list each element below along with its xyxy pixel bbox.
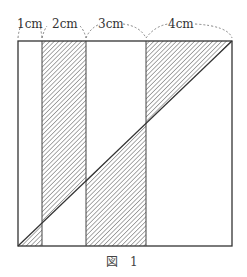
dimension-arcs [18,24,232,38]
shaded-strip-4 [146,41,232,246]
segment-label-3: 3cm [98,17,124,31]
shaded-strip-1 [18,41,42,246]
shaded-strip-2 [42,41,86,246]
segment-label-2: 2cm [52,17,78,31]
figure-1-diagram: 1cm 2cm 3cm 4cm 図 1 [0,0,247,277]
shaded-strip-3 [86,41,146,246]
segment-label-4: 4cm [168,17,194,31]
segment-label-1: 1cm [17,17,43,31]
figure-caption: 図 1 [106,255,138,269]
